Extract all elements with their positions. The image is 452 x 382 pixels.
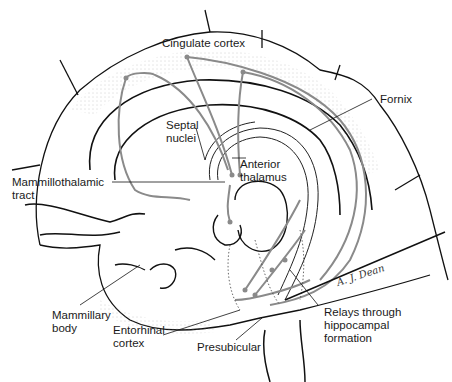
artist-signature: A. J. Dean — [334, 262, 385, 288]
label-relays-hippocampal: Relays through hippocampal formation — [324, 306, 401, 345]
label-mammillothalamic-tract: Mammillothalamic tract — [12, 176, 104, 202]
label-septal-nuclei: Septal nuclei — [166, 119, 199, 145]
thalamus-region — [115, 181, 287, 288]
label-cingulate-cortex: Cingulate cortex — [162, 37, 245, 50]
label-entorhinal-cortex: Entorhinal cortex — [113, 324, 165, 350]
leader-lines — [80, 99, 372, 340]
label-fornix: Fornix — [380, 93, 412, 106]
cortex-stipple — [70, 50, 380, 334]
label-presubicular: Presubicular — [197, 341, 261, 354]
label-anterior-thalamus: Anterior thalamus — [240, 158, 287, 184]
hippocampal-dotted — [228, 230, 304, 310]
label-mammillary-body: Mammillary body — [52, 309, 111, 335]
fornix-arcs — [205, 122, 318, 300]
